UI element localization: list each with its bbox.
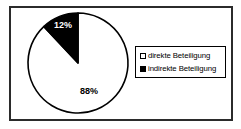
legend-label-indirekte: indirekte Beteiligung bbox=[148, 64, 216, 73]
pie-chart-figure: 88% 12% direkte Beteiligung indirekte Be… bbox=[0, 0, 241, 129]
legend-marker-direkte-icon bbox=[140, 53, 146, 59]
pie-data-label-indirekte: 12% bbox=[54, 20, 72, 30]
legend: direkte Beteiligung indirekte Beteiligun… bbox=[135, 46, 226, 78]
legend-item-direkte: direkte Beteiligung bbox=[140, 51, 225, 61]
legend-item-indirekte: indirekte Beteiligung bbox=[140, 64, 225, 74]
pie-data-label-direkte: 88% bbox=[80, 86, 98, 96]
legend-label-direkte: direkte Beteiligung bbox=[148, 51, 210, 60]
legend-marker-indirekte-icon bbox=[140, 66, 146, 72]
pie-slices bbox=[28, 13, 128, 113]
